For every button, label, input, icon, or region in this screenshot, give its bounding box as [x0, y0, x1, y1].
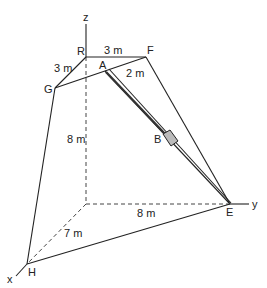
point-label-G: G — [44, 83, 53, 95]
edge-GH — [27, 88, 55, 264]
dim-AF: 2 m — [126, 67, 144, 79]
axis-label-x: x — [7, 273, 13, 285]
point-label-F: F — [147, 44, 154, 56]
dim-height: 8 m — [67, 133, 85, 145]
axis-label-z: z — [83, 11, 89, 23]
3d-structure-diagram: z y x R F G A B E H 3 m 3 m 2 m 8 m 8 m … — [0, 0, 267, 288]
strut-AB-thick — [106, 72, 166, 135]
dim-RF: 3 m — [104, 44, 122, 56]
dim-OH: 7 m — [64, 227, 82, 239]
dim-RG: 3 m — [54, 62, 72, 74]
x-axis-visible — [16, 264, 27, 276]
point-label-A: A — [99, 59, 107, 71]
point-label-H: H — [28, 266, 36, 278]
edge-HE — [27, 204, 230, 264]
point-label-R: R — [77, 45, 85, 57]
point-label-B: B — [154, 133, 161, 145]
point-label-E: E — [226, 206, 233, 218]
edge-FE — [146, 57, 230, 204]
axis-label-y: y — [252, 198, 258, 210]
collar-B — [163, 130, 178, 146]
dim-OE: 8 m — [137, 207, 155, 219]
